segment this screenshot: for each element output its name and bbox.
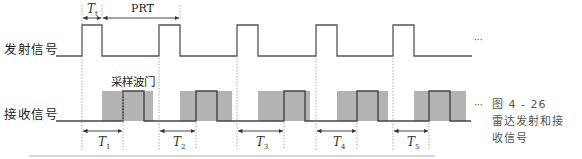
figure-number: 图 4 - 26 [492,96,564,113]
receive-ellipsis: ··· [474,100,483,110]
delay-label-t4: T4 [333,135,345,151]
prt-label: PRT [131,2,154,15]
figure-caption: 图 4 - 26 雷达发射和接 收信号 [492,96,564,147]
sampling-gate-label: 采样波门 [111,73,155,89]
caption-line-1: 雷达发射和接 [492,113,564,130]
delay-label-t1: T1 [98,135,110,151]
delay-label-t2: T2 [173,135,185,151]
transmit-signal-label: 发射信号 [4,39,58,58]
delay-label-t5: T5 [407,135,419,151]
caption-line-2: 收信号 [492,130,564,147]
receive-signal-label: 接收信号 [4,104,58,123]
pulse-width-label: Tt [87,2,98,18]
delay-label-t3: T3 [256,135,268,151]
transmit-ellipsis: ··· [474,35,483,45]
transmit-waveform [56,25,472,56]
